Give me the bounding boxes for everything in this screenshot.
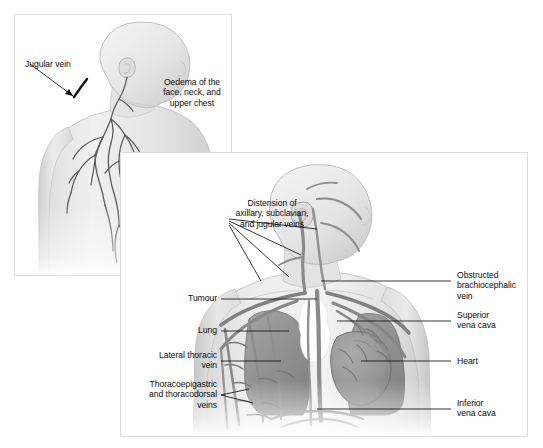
label-thoracoepigastric-veins: Thoracoepigastric and thoracodorsal vein… <box>121 379 217 410</box>
label-tumour: Tumour <box>133 293 217 303</box>
panel-thoracic-anatomy: Distension of axillary, subclavian, and … <box>120 152 528 437</box>
label-oedema: Oedema of the face, neck, and upper ches… <box>155 77 229 108</box>
label-lateral-thoracic-vein: Lateral thoracic vein <box>125 350 217 371</box>
label-jugular-vein: Jugular vein <box>25 59 71 69</box>
p2-tumour <box>299 298 331 363</box>
figure-root: Jugular vein Oedema of the face, neck, a… <box>0 0 543 448</box>
label-superior-vena-cava: Superior vena cava <box>457 310 528 331</box>
label-lung: Lung <box>133 325 217 335</box>
label-obstructed-brachiocephalic-vein: Obstructed brachiocephalic vein <box>457 270 528 301</box>
label-heart: Heart <box>457 356 528 366</box>
label-inferior-vena-cava: Inferior vena cava <box>457 398 528 419</box>
label-distension: Distension of axillary, subclavian, and … <box>217 198 327 229</box>
